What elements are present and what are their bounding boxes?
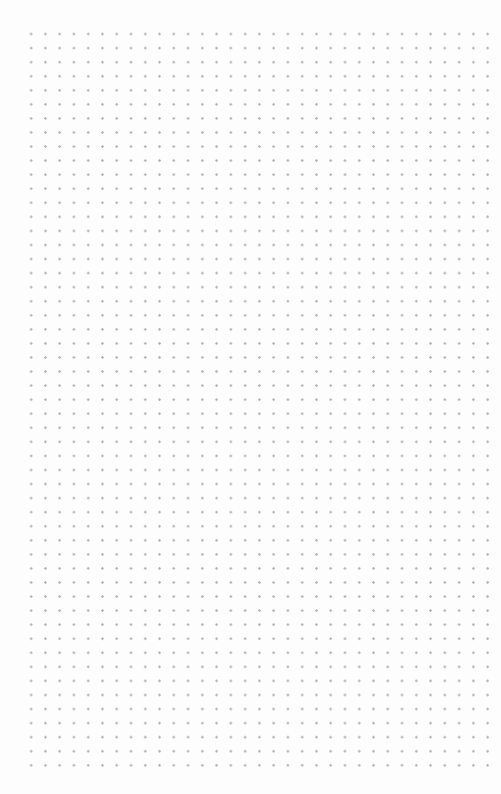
dot-grid-canvas[interactable]	[24, 27, 496, 773]
